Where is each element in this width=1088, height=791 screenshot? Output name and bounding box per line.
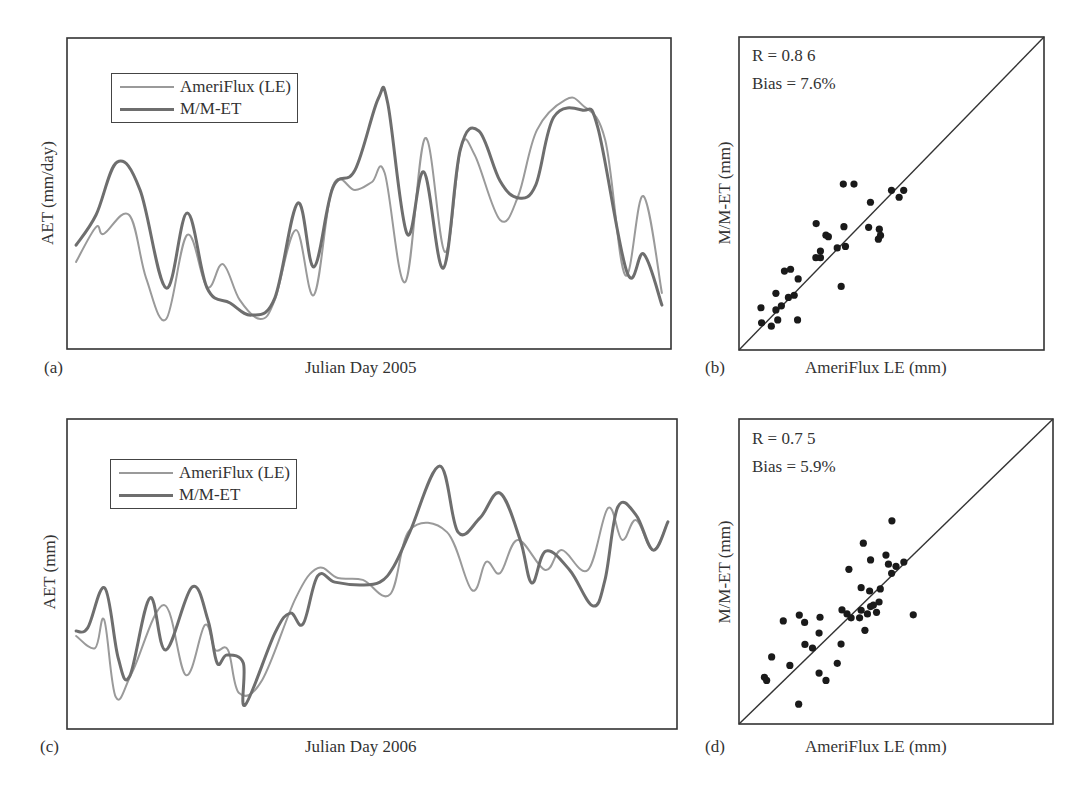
panel-d-tag: (d) [705, 737, 725, 757]
scatter-point [856, 614, 863, 621]
scatter-point [860, 540, 867, 547]
scatter-point [838, 283, 845, 290]
scatter-point [795, 701, 802, 708]
scatter-point [791, 292, 798, 299]
scatter-point [900, 187, 907, 194]
scatter-point [892, 563, 899, 570]
scatter-point [865, 224, 872, 231]
scatter-point [815, 669, 822, 676]
ameriflux-series-line [76, 507, 668, 699]
scatter-point [787, 266, 794, 273]
scatter-point [825, 233, 832, 240]
scatter-point [815, 630, 822, 637]
scatter-point [795, 275, 802, 282]
scatter-point [768, 653, 775, 660]
scatter-point [876, 226, 883, 233]
panel-b-y-axis-label: M/M-ET (mm) [715, 133, 735, 253]
legend-label-mmet: M/M-ET [180, 99, 241, 119]
scatter-point [842, 243, 849, 250]
scatter-point [873, 609, 880, 616]
panel-b-x-axis-label: AmeriFlux LE (mm) [805, 358, 947, 378]
scatter-point [858, 584, 865, 591]
scatter-point [834, 660, 841, 667]
scatter-point [794, 316, 801, 323]
scatter-point [778, 302, 785, 309]
scatter-point [837, 640, 844, 647]
panel-c-tag: (c) [40, 737, 59, 757]
scatter-point [809, 644, 816, 651]
scatter-point [867, 603, 874, 610]
scatter-point [817, 247, 824, 254]
scatter-point [877, 232, 884, 239]
scatter-point [817, 254, 824, 261]
legend-label-ameriflux: AmeriFlux (LE) [179, 463, 290, 483]
legend-label-mmet: M/M-ET [179, 485, 240, 505]
scatter-point [858, 607, 865, 614]
scatter-point [877, 585, 884, 592]
panel-c-legend: AmeriFlux (LE) M/M-ET [110, 459, 297, 509]
scatter-point [801, 619, 808, 626]
scatter-point [882, 551, 889, 558]
scatter-point [780, 617, 787, 624]
scatter-point [786, 662, 793, 669]
scatter-point [896, 194, 903, 201]
panel-b-r-value: R = 0.8 6 [752, 46, 815, 66]
scatter-point [845, 566, 852, 573]
legend-item-mmet: M/M-ET [119, 484, 290, 506]
legend-item-ameriflux: AmeriFlux (LE) [119, 462, 290, 484]
scatter-point [834, 244, 841, 251]
scatter-point [781, 268, 788, 275]
scatter-point [888, 517, 895, 524]
scatter-point [801, 641, 808, 648]
mmet-line-swatch [120, 108, 174, 111]
panel-d-y-axis-label: M/M-ET (mm) [715, 512, 735, 632]
scatter-point [847, 614, 854, 621]
scatter-point [910, 611, 917, 618]
panel-c-x-axis-label: Julian Day 2006 [305, 737, 416, 757]
panel-d-r-value: R = 0.7 5 [752, 429, 815, 449]
scatter-point [885, 561, 892, 568]
scatter-point [822, 677, 829, 684]
scatter-point [816, 614, 823, 621]
scatter-point [866, 587, 873, 594]
panel-d-x-axis-label: AmeriFlux LE (mm) [805, 737, 947, 757]
ameriflux-line-swatch [120, 86, 174, 88]
mmet-line-swatch [119, 494, 173, 497]
scatter-point [867, 556, 874, 563]
scatter-point [888, 187, 895, 194]
panel-a-tag: (a) [44, 358, 63, 378]
ameriflux-line-swatch [119, 472, 173, 474]
scatter-point [796, 612, 803, 619]
scatter-point [867, 199, 874, 206]
scatter-point [864, 610, 871, 617]
scatter-point [840, 181, 847, 188]
scatter-point [861, 627, 868, 634]
panel-b-tag: (b) [705, 358, 725, 378]
panel-d-bias-value: Bias = 5.9% [752, 457, 836, 477]
scatter-point [840, 223, 847, 230]
scatter-point [763, 677, 770, 684]
scatter-point [757, 304, 764, 311]
panel-a-y-axis-label: AET (mm/day) [38, 133, 58, 253]
scatter-point [768, 323, 775, 330]
legend-item-ameriflux: AmeriFlux (LE) [120, 76, 291, 98]
scatter-point [774, 316, 781, 323]
scatter-point [758, 319, 765, 326]
scatter-point [813, 220, 820, 227]
panel-b-bias-value: Bias = 7.6% [752, 74, 836, 94]
panel-a-legend: AmeriFlux (LE) M/M-ET [111, 73, 298, 123]
legend-item-mmet: M/M-ET [120, 98, 291, 120]
scatter-point [888, 570, 895, 577]
scatter-point [900, 558, 907, 565]
scatter-point [772, 290, 779, 297]
scatter-point [850, 181, 857, 188]
legend-label-ameriflux: AmeriFlux (LE) [180, 77, 291, 97]
panel-a-x-axis-label: Julian Day 2005 [305, 358, 416, 378]
panel-c-y-axis-label: AET (mm) [40, 512, 60, 632]
